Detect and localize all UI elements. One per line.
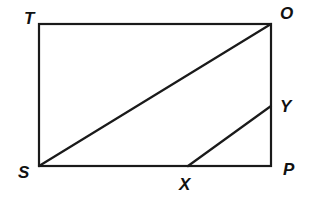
label-p: P xyxy=(283,160,295,179)
diagonal-so xyxy=(39,24,271,166)
segment-xy xyxy=(188,106,271,166)
label-t: T xyxy=(24,9,36,28)
label-x: X xyxy=(178,175,192,194)
label-s: S xyxy=(18,163,30,182)
geometry-diagram: T O Y P S X xyxy=(0,0,315,198)
label-y: Y xyxy=(280,97,293,116)
label-o: O xyxy=(280,4,293,23)
